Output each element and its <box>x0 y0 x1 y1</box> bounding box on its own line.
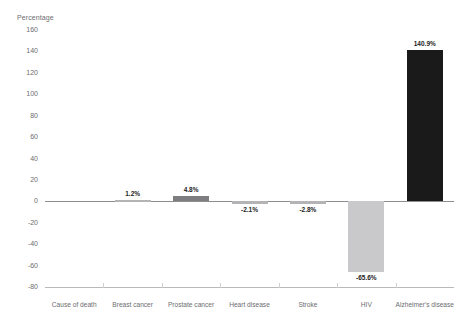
bar <box>290 201 326 204</box>
x-axis-category-label: Prostate cancer <box>162 300 220 309</box>
bar <box>115 200 151 202</box>
x-axis-category-label: HIV <box>337 300 395 309</box>
y-tick-label: -80 <box>0 283 38 291</box>
bar-chart: Percentage 160140120100806040200-20-40-6… <box>0 0 462 327</box>
y-tick-label: 120 <box>0 69 38 77</box>
x-axis-category-label: Stroke <box>279 300 337 309</box>
x-axis-category-label: Alzheimer's disease <box>396 300 454 309</box>
y-tick-label: 40 <box>0 155 38 163</box>
bar-value-label: 4.8% <box>161 186 221 194</box>
y-axis-title: Percentage <box>17 14 54 21</box>
x-tick-mark <box>103 283 104 288</box>
bar <box>173 196 209 201</box>
y-tick-label: -20 <box>0 219 38 227</box>
bar-value-label: -2.1% <box>220 206 280 214</box>
bar-value-label: 1.2% <box>103 190 163 198</box>
bar-value-label: -2.8% <box>278 206 338 214</box>
bar <box>232 201 268 203</box>
y-tick-label: -40 <box>0 240 38 248</box>
y-tick-label: 0 <box>0 197 38 205</box>
y-tick-label: 140 <box>0 47 38 55</box>
x-axis-line <box>45 287 454 288</box>
y-tick-label: 60 <box>0 133 38 141</box>
y-tick-label: -60 <box>0 262 38 270</box>
y-tick-label: 100 <box>0 90 38 98</box>
y-tick-label: 20 <box>0 176 38 184</box>
x-tick-mark <box>396 283 397 288</box>
x-tick-mark <box>279 283 280 288</box>
x-tick-mark <box>220 283 221 288</box>
y-tick-label: 80 <box>0 112 38 120</box>
bar-value-label: 140.9% <box>395 40 455 48</box>
bar <box>348 201 384 271</box>
plot-area: 1.2%4.8%-2.1%-2.8%-65.6%140.9% <box>45 30 454 287</box>
x-tick-mark <box>337 283 338 288</box>
x-axis-category-label: Heart disease <box>220 300 278 309</box>
x-axis-category-label: Breast cancer <box>103 300 161 309</box>
x-tick-mark <box>162 283 163 288</box>
y-tick-label: 160 <box>0 26 38 34</box>
bar-value-label: -65.6% <box>336 274 396 282</box>
x-axis-row-header: Cause of death <box>45 300 103 309</box>
bar <box>407 50 443 201</box>
